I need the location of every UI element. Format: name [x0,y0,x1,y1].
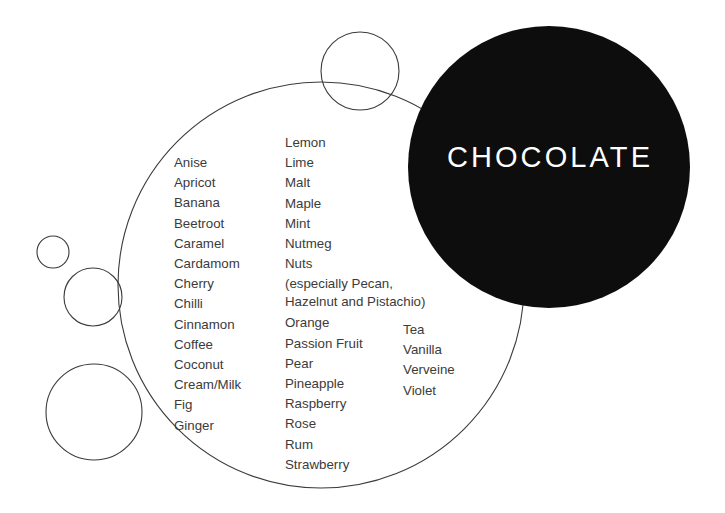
list-item: Ginger [174,416,241,436]
list-item: Tea [403,320,455,340]
list-item: Apricot [174,173,241,193]
list-item: Strawberry [285,455,425,475]
list-item: Nutmeg [285,234,425,254]
list-item: Lemon [285,133,425,153]
flavour-column-3: Tea Vanilla Verveine Violet [403,320,455,401]
list-item: Chilli [174,294,241,314]
list-item: Cinnamon [174,315,241,335]
list-item: Rum [285,435,425,455]
list-item: Maple [285,194,425,214]
page-title: CHOCOLATE [409,140,691,174]
small-circle-left-upper [37,236,69,268]
list-item: Lime [285,153,425,173]
list-item: Vanilla [403,340,455,360]
list-item: Verveine [403,360,455,380]
list-item: Malt [285,173,425,193]
list-item: Violet [403,381,455,401]
list-item: Coconut [174,355,241,375]
flavour-pairing-diagram: CHOCOLATE Anise Apricot Banana Beetroot … [0,0,725,513]
list-item: Nuts [285,254,425,274]
list-item: Rose [285,414,425,434]
list-item: Caramel [174,234,241,254]
list-item: Fig [174,395,241,415]
flavour-column-1: Anise Apricot Banana Beetroot Caramel Ca… [174,153,241,436]
list-item: Beetroot [174,214,241,234]
list-item: Cherry [174,274,241,294]
list-item: Coffee [174,335,241,355]
list-item: Anise [174,153,241,173]
small-circle-left-lower [46,364,142,460]
small-circle-left-middle [64,268,122,326]
list-item: Banana [174,193,241,213]
list-item: Cream/Milk [174,375,241,395]
list-item-note-line-1: (especially Pecan, [285,274,425,293]
list-item-note-line-2: Hazelnut and Pistachio) [285,293,425,311]
flavour-column-2: Lemon Lime Malt Maple Mint Nutmeg Nuts (… [285,133,425,475]
list-item: Cardamom [174,254,241,274]
list-item: Mint [285,214,425,234]
small-circle-top [321,32,399,110]
